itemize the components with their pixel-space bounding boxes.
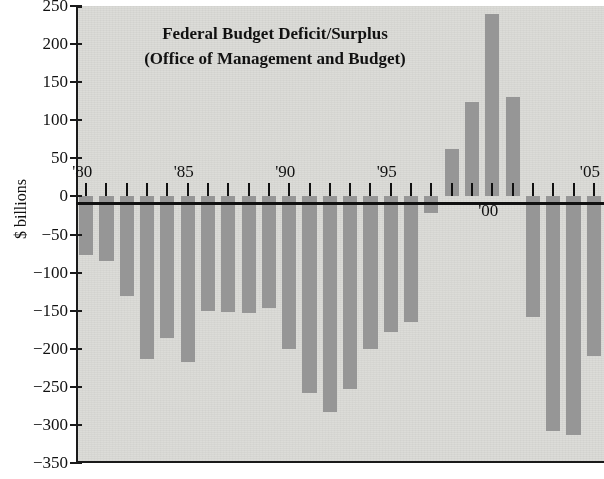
y-axis-tick [70, 234, 82, 236]
x-axis-tick [166, 183, 168, 196]
x-axis-tick [309, 183, 311, 196]
x-axis-tick [532, 183, 534, 196]
x-axis-tick [471, 183, 473, 196]
bar [323, 196, 337, 412]
bar [160, 196, 174, 338]
bar [485, 14, 499, 197]
bar [79, 196, 93, 255]
x-axis-tick-label: '85 [174, 163, 194, 180]
y-axis-tick-label: 0 [8, 187, 68, 204]
bar [526, 196, 540, 316]
bar [262, 196, 276, 308]
bar [343, 196, 357, 389]
bar [99, 196, 113, 261]
x-axis-tick [105, 183, 107, 196]
x-axis-tick [390, 183, 392, 196]
x-axis-tick [552, 183, 554, 196]
x-axis-tick [593, 183, 595, 196]
bar [221, 196, 235, 312]
x-axis-tick [146, 183, 148, 196]
y-axis-tick [70, 195, 82, 197]
bar [587, 196, 601, 355]
x-axis-tick [410, 183, 412, 196]
x-axis-tick [329, 183, 331, 196]
bar [302, 196, 316, 393]
y-axis-tick-label: 100 [8, 111, 68, 128]
y-axis-tick-label: 50 [8, 149, 68, 166]
y-axis-tick-label: −150 [8, 302, 68, 319]
x-axis-tick [573, 183, 575, 196]
y-axis-tick [70, 462, 82, 464]
x-axis-tick [268, 183, 270, 196]
y-axis-tick [70, 310, 82, 312]
y-axis-tick-label: −350 [8, 454, 68, 471]
bar [566, 196, 580, 434]
y-axis-tick [70, 272, 82, 274]
y-axis-tick-label: −200 [8, 340, 68, 357]
bar [120, 196, 134, 296]
bar [201, 196, 215, 310]
y-axis-tick [70, 119, 82, 121]
y-axis-tick-label: −250 [8, 378, 68, 395]
bar [404, 196, 418, 322]
x-axis-tick [451, 183, 453, 196]
bar [506, 97, 520, 197]
y-axis-tick [70, 157, 82, 159]
x-axis-tick [207, 183, 209, 196]
x-axis-tick [288, 183, 290, 196]
x-axis-tick [126, 183, 128, 196]
bar [465, 102, 479, 196]
bar [384, 196, 398, 332]
bar [140, 196, 154, 358]
bar [242, 196, 256, 313]
y-axis-tick-label: −300 [8, 416, 68, 433]
x-axis-tick [85, 183, 87, 196]
bar [282, 196, 296, 348]
x-axis-tick [187, 183, 189, 196]
x-axis-tick [430, 183, 432, 196]
y-axis-tick-label: 150 [8, 73, 68, 90]
zero-baseline [76, 202, 604, 205]
x-axis-tick [369, 183, 371, 196]
bar [546, 196, 560, 431]
chart-title: Federal Budget Deficit/Surplus (Office o… [110, 22, 440, 71]
x-axis-line [76, 461, 604, 463]
bar [363, 196, 377, 348]
x-axis-tick-label: '95 [377, 163, 397, 180]
chart-title-line-2: (Office of Management and Budget) [110, 47, 440, 72]
x-axis-tick [248, 183, 250, 196]
y-axis-tick [70, 386, 82, 388]
y-axis-tick [70, 43, 82, 45]
x-axis-tick-label: '05 [580, 163, 600, 180]
bar [181, 196, 195, 361]
x-axis-tick [512, 183, 514, 196]
y-axis-tick-label: −50 [8, 226, 68, 243]
chart-title-line-1: Federal Budget Deficit/Surplus [110, 22, 440, 47]
y-axis-tick-label: 250 [8, 0, 68, 14]
y-axis-tick-label: 200 [8, 35, 68, 52]
x-axis-tick-label: '00 [478, 202, 498, 219]
y-axis-tick [70, 424, 82, 426]
x-axis-tick [349, 183, 351, 196]
y-axis-tick [70, 348, 82, 350]
plot-area [76, 6, 604, 463]
y-axis-tick [70, 5, 82, 7]
x-axis-tick [227, 183, 229, 196]
x-axis-tick-label: '90 [275, 163, 295, 180]
x-axis-tick [491, 183, 493, 196]
x-axis-tick-label: '80 [72, 163, 92, 180]
chart-figure: $ billions Federal Budget Deficit/Surplu… [0, 0, 604, 479]
y-axis-tick [70, 81, 82, 83]
y-axis-tick-label: −100 [8, 264, 68, 281]
